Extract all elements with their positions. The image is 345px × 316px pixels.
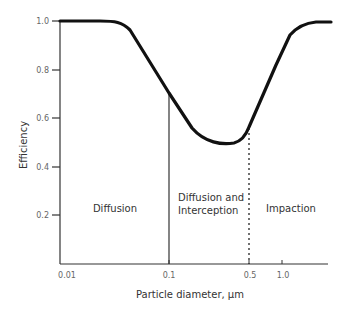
axes <box>60 21 328 264</box>
x-tick-label: 0.1 <box>163 271 176 280</box>
y-tick-label: 0.4 <box>36 163 49 172</box>
y-tick-label: 0.8 <box>36 66 49 75</box>
x-tick-label: 1.0 <box>277 271 290 280</box>
y-axis-title: Efficiency <box>18 121 29 169</box>
x-axis-title: Particle diameter, µm <box>136 289 244 300</box>
y-tick-label: 1.0 <box>36 17 49 26</box>
region-label-diffusion: Diffusion <box>93 203 137 214</box>
efficiency-chart: 1.0 0.8 0.6 0.4 0.2 0.01 0.1 0.5 1.0 Dif… <box>0 0 345 316</box>
y-tick-label: 0.6 <box>36 114 49 123</box>
efficiency-curve <box>60 21 331 144</box>
region-label-impaction: Impaction <box>266 203 316 214</box>
region-label-diffusion-interception-line1: Diffusion and <box>178 192 244 203</box>
region-label-diffusion-interception-line2: Interception <box>178 205 238 216</box>
x-ticks: 0.01 0.1 0.5 1.0 <box>58 260 289 280</box>
x-tick-label: 0.5 <box>244 271 257 280</box>
y-tick-label: 0.2 <box>36 211 49 220</box>
x-tick-label: 0.01 <box>58 271 76 280</box>
y-ticks: 1.0 0.8 0.6 0.4 0.2 <box>36 17 60 220</box>
